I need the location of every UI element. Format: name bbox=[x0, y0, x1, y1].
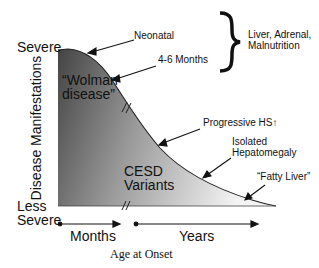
annotation-4-6-months: 4-6 Months bbox=[158, 55, 208, 66]
x-segment-months: Months bbox=[70, 229, 116, 244]
region-wolman-2: disease” bbox=[62, 87, 115, 102]
y-axis-title: Disease Manifestations bbox=[29, 56, 44, 201]
annotation-brace-2: Malnutrition bbox=[248, 41, 300, 52]
curly-brace bbox=[220, 13, 240, 71]
progressive-hs-text: Progressive HS bbox=[203, 117, 272, 128]
region-cesd-2: Variants bbox=[124, 178, 174, 193]
annotation-progressive-hs: Progressive HS↑ bbox=[203, 118, 277, 129]
arrow-isolated-hepatomegaly bbox=[207, 158, 231, 175]
annotation-neonatal: Neonatal bbox=[134, 31, 174, 42]
arrow-fatty-liver bbox=[249, 185, 265, 197]
x-axis-arrows bbox=[58, 221, 258, 227]
x-axis-title: Age at Onset bbox=[110, 248, 173, 261]
arrow-progressive-hs bbox=[163, 129, 200, 143]
x-segment-years: Years bbox=[179, 229, 214, 244]
arrow-up-icon: ↑ bbox=[272, 117, 277, 128]
annotation-fatty-liver: “Fatty Liver” bbox=[257, 172, 310, 183]
arrow-neonatal bbox=[92, 40, 134, 52]
annotation-isolated-1: Isolated bbox=[232, 137, 267, 148]
arrow-4-6-months bbox=[116, 66, 156, 79]
y-axis-top-label: Severe bbox=[17, 40, 61, 55]
annotation-brace-1: Liver, Adrenal, bbox=[248, 30, 311, 41]
annotation-isolated-2: Hepatomegaly bbox=[232, 148, 296, 159]
y-axis-bottom-label-2: Severe bbox=[17, 213, 61, 228]
